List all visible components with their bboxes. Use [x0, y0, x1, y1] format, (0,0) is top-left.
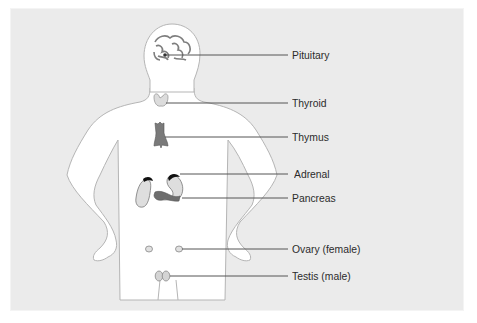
label-ovary: Ovary (female) [292, 242, 360, 256]
ovary-left [146, 246, 153, 252]
body-outline [67, 24, 277, 300]
label-pancreas: Pancreas [292, 191, 336, 205]
label-pituitary: Pituitary [292, 48, 329, 62]
label-testis: Testis (male) [292, 269, 351, 283]
testis-right [162, 271, 170, 281]
label-thymus: Thymus [292, 130, 329, 144]
testis-left [155, 271, 163, 281]
ovary-right [176, 246, 183, 252]
label-adrenal: Adrenal [294, 167, 330, 181]
label-thyroid: Thyroid [292, 96, 327, 110]
body-figure [0, 0, 477, 323]
